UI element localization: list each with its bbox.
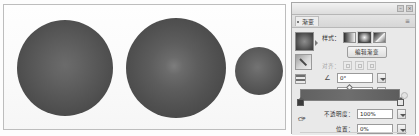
chevron-right-icon[interactable] [315, 40, 318, 46]
close-icon[interactable]: × [406, 5, 413, 12]
align-button-center[interactable] [355, 61, 364, 70]
minimize-icon[interactable]: – [397, 5, 404, 12]
panel-footer-divider [300, 132, 407, 133]
angle-icon: ∠ [322, 73, 333, 83]
gradient-side-handle[interactable] [401, 92, 408, 99]
gradient-bar[interactable] [300, 89, 400, 101]
align-row: 对齐： [322, 60, 412, 71]
gradient-pencil-tool-icon[interactable] [295, 54, 312, 70]
sphere-small-right [235, 47, 283, 95]
sphere-large-left [17, 20, 113, 116]
align-label: 对齐： [322, 62, 340, 70]
window-controls: – × [397, 5, 413, 12]
gradient-stop-left[interactable] [297, 99, 304, 106]
panel-titlebar[interactable]: – × [292, 3, 415, 15]
style-label: 样式： [322, 33, 340, 42]
panel-menu-icon[interactable]: ≡ [405, 18, 411, 24]
gradient-list-tool-icon[interactable] [295, 74, 306, 84]
opacity-label: 不透明度： [320, 110, 354, 118]
sphere-large-middle [126, 18, 226, 118]
tool-column [295, 32, 317, 84]
screenshot-root: – × 渐变 ≡ [0, 0, 419, 136]
opacity-chevron-down-icon[interactable] [397, 109, 406, 119]
align-button-left[interactable] [343, 61, 352, 70]
angle-input[interactable]: 0° [337, 73, 373, 83]
canvas-background [4, 5, 285, 129]
style-button-angle[interactable] [373, 32, 386, 43]
eyedropper-icon[interactable]: ✑ [297, 111, 311, 127]
style-row: 样式： [322, 31, 412, 44]
location-row: 位置： 0% [320, 123, 411, 135]
tab-gradient-label: 渐变 [302, 18, 314, 25]
tab-dot-icon [297, 21, 299, 23]
edit-gradient-row: 编辑渐变 [322, 46, 412, 58]
panel-tabbar: 渐变 ≡ [292, 15, 415, 28]
gradient-preview-swatch[interactable] [295, 32, 314, 51]
gradient-panel: – × 渐变 ≡ [291, 2, 416, 134]
style-button-radial[interactable] [358, 32, 371, 43]
angle-row: ∠ 0° [322, 72, 412, 84]
gradient-editor [296, 84, 406, 106]
style-button-linear[interactable] [343, 32, 356, 43]
canvas-artboard[interactable] [3, 4, 286, 130]
style-button-group [343, 32, 386, 43]
pencil-stroke-icon [299, 58, 307, 66]
opacity-row: 不透明度： 100% [320, 108, 411, 120]
angle-dropdown-chevron-down-icon[interactable] [377, 73, 386, 83]
tab-gradient[interactable]: 渐变 [295, 16, 319, 26]
panel-body: 样式： 编辑渐变 对齐： ∠ [292, 28, 415, 135]
gradient-stop-right[interactable] [397, 99, 404, 106]
edit-gradient-button[interactable]: 编辑渐变 [347, 46, 387, 58]
align-button-right[interactable] [367, 61, 376, 70]
opacity-input[interactable]: 100% [357, 109, 393, 119]
